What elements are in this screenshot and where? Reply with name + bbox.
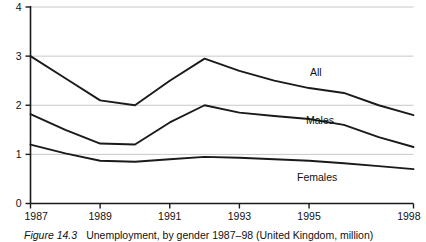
y-tick-label-4: 4	[16, 1, 22, 13]
caption-text: Unemployment, by gender 1987–98 (United …	[86, 229, 373, 241]
x-tick-label-1993: 1993	[228, 210, 252, 222]
x-tick-label-1991: 1991	[158, 210, 182, 222]
y-axis-tick-labels: 01234	[16, 1, 22, 210]
series-line-females	[31, 145, 414, 170]
x-tick-label-1995: 1995	[297, 210, 321, 222]
gridlines	[31, 7, 414, 154]
y-tick-label-0: 0	[16, 197, 22, 209]
series-label-males: Males	[306, 114, 334, 126]
y-tick-label-2: 2	[16, 99, 22, 111]
series-label-group: AllMalesFemales	[297, 66, 337, 183]
series-label-all: All	[310, 66, 322, 78]
y-tick-label-3: 3	[16, 50, 22, 62]
line-chart: 01234 198719891991199319951998 AllMalesF…	[0, 0, 426, 226]
x-tick-label-1989: 1989	[88, 210, 112, 222]
x-tick-label-1998: 1998	[397, 210, 421, 222]
y-tick-label-1: 1	[16, 148, 22, 160]
series-line-all	[31, 56, 414, 115]
figure-caption: Figure 14.3Unemployment, by gender 1987–…	[24, 229, 424, 242]
figure-number: Figure 14.3	[24, 229, 77, 241]
data-series-group	[31, 56, 414, 169]
x-axis-tick-labels: 198719891991199319951998	[25, 210, 421, 222]
series-label-females: Females	[297, 171, 337, 183]
figure-container: 01234 198719891991199319951998 AllMalesF…	[0, 0, 426, 242]
x-tick-label-1987: 1987	[25, 210, 49, 222]
series-line-males	[31, 105, 414, 147]
